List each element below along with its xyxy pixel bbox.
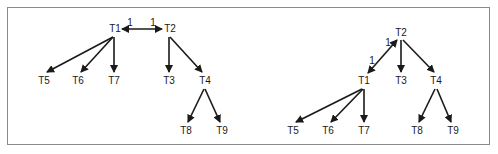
edge-weight-label: 1 — [385, 37, 391, 48]
edge-weight-label: 1 — [150, 17, 156, 28]
edge-t1-t6-arrow — [331, 89, 363, 122]
edge-weight-label: 1 — [369, 55, 375, 66]
node-t8: T8 — [180, 125, 192, 136]
node-t1: T1 — [109, 23, 121, 34]
node-t9: T9 — [447, 125, 459, 136]
node-t1: T1 — [358, 75, 370, 86]
edge-t4-t9-arrow — [205, 89, 220, 122]
right-tree-diagram: 11T2T1T3T4T5T6T7T8T9 — [287, 27, 459, 136]
edge-t1-t5-arrow — [47, 37, 113, 72]
edge-t2-t4-arrow — [403, 40, 434, 72]
edge-t4-t9-arrow — [437, 89, 451, 122]
edge-t1-t6-arrow — [81, 37, 113, 72]
node-t5: T5 — [287, 125, 299, 136]
left-tree-diagram: 11T1T2T5T6T7T3T4T8T9 — [38, 17, 228, 136]
node-t4: T4 — [199, 75, 211, 86]
node-t2: T2 — [164, 23, 176, 34]
node-t4: T4 — [430, 75, 442, 86]
node-t3: T3 — [163, 75, 175, 86]
node-t7: T7 — [108, 75, 120, 86]
node-t3: T3 — [395, 75, 407, 86]
edge-t4-t8-arrow — [188, 89, 204, 122]
edge-weight-label: 1 — [127, 17, 133, 28]
edge-t4-t8-arrow — [419, 89, 435, 122]
node-t5: T5 — [38, 75, 50, 86]
node-t8: T8 — [411, 125, 423, 136]
edge-t1-t5-arrow — [296, 89, 362, 122]
tree-diagram-canvas: 11T1T2T5T6T7T3T4T8T9 11T2T1T3T4T5T6T7T8T… — [0, 0, 498, 154]
node-t2: T2 — [395, 27, 407, 38]
node-t6: T6 — [322, 125, 334, 136]
edge-t2-t4-arrow — [170, 37, 202, 72]
node-t9: T9 — [216, 125, 228, 136]
node-t7: T7 — [358, 125, 370, 136]
node-t6: T6 — [72, 75, 84, 86]
